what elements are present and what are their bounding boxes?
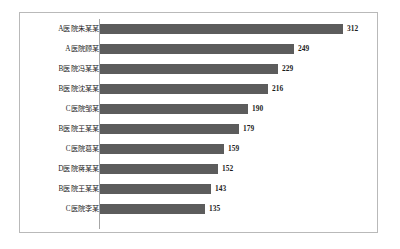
- bar-row: B医院王某某179: [20, 119, 377, 139]
- bar-category-label: B医院冯某某: [20, 59, 99, 79]
- bar-chart-plot-area: A医院朱某某312A医院顾某249B医院冯某某229B医院沈某某216C医院邹某…: [20, 13, 377, 232]
- bar: [100, 84, 268, 94]
- bar-category-label: C医院葛某: [20, 139, 99, 159]
- bar-track: 229: [100, 59, 375, 79]
- bar: [100, 144, 224, 154]
- bar: [100, 184, 211, 194]
- bar-value-label: 179: [239, 119, 254, 139]
- bar-value-label: 159: [224, 139, 239, 159]
- bar-track: 152: [100, 159, 375, 179]
- bar-track: 143: [100, 179, 375, 199]
- bar-category-label: B医院王某某: [20, 179, 99, 199]
- bar-category-label: D医院蒋某某: [20, 159, 99, 179]
- bar-category-label: C医院邹某: [20, 99, 99, 119]
- bar-row: B医院王某某143: [20, 179, 377, 199]
- bar: [100, 124, 239, 134]
- bar: [100, 24, 343, 34]
- chart-frame: A医院朱某某312A医院顾某249B医院冯某某229B医院沈某某216C医院邹某…: [19, 12, 378, 233]
- bar-track: 312: [100, 19, 375, 39]
- bar-row: C医院李某135: [20, 199, 377, 219]
- bar-track: 249: [100, 39, 375, 59]
- bar: [100, 204, 205, 214]
- bar-row: C医院邹某190: [20, 99, 377, 119]
- bar-category-label: C医院李某: [20, 199, 99, 219]
- bar-value-label: 216: [268, 79, 283, 99]
- bar-value-label: 312: [343, 19, 358, 39]
- bar-value-label: 190: [248, 99, 263, 119]
- bar-category-label: A医院朱某某: [20, 19, 99, 39]
- bar-row: B医院冯某某229: [20, 59, 377, 79]
- bar-row: D医院蒋某某152: [20, 159, 377, 179]
- bar-value-label: 135: [205, 199, 220, 219]
- bar: [100, 64, 278, 74]
- bar-track: 135: [100, 199, 375, 219]
- bar-track: 216: [100, 79, 375, 99]
- bar-category-label: B医院沈某某: [20, 79, 99, 99]
- bar-value-label: 143: [211, 179, 226, 199]
- bar-value-label: 229: [278, 59, 293, 79]
- bar-row: C医院葛某159: [20, 139, 377, 159]
- bar-value-label: 152: [218, 159, 233, 179]
- bar: [100, 104, 248, 114]
- bar-row: A医院朱某某312: [20, 19, 377, 39]
- bar-track: 159: [100, 139, 375, 159]
- bar-track: 179: [100, 119, 375, 139]
- bar-value-label: 249: [294, 39, 309, 59]
- bar: [100, 44, 294, 54]
- bar-category-label: B医院王某某: [20, 119, 99, 139]
- bar-category-label: A医院顾某: [20, 39, 99, 59]
- bar-row: B医院沈某某216: [20, 79, 377, 99]
- bar-row: A医院顾某249: [20, 39, 377, 59]
- bar-track: 190: [100, 99, 375, 119]
- bar: [100, 164, 218, 174]
